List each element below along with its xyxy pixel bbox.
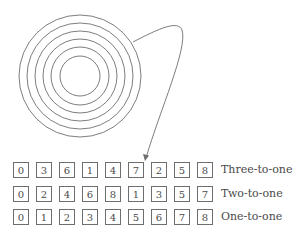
cell: 7 [197, 186, 213, 202]
cell: 3 [82, 209, 98, 225]
cell: 1 [36, 209, 52, 225]
cell: 0 [13, 162, 29, 178]
ring [19, 15, 141, 137]
cell: 5 [128, 209, 144, 225]
cell: 5 [174, 162, 190, 178]
cell: 2 [36, 186, 52, 202]
row-label: Three-to-one [221, 162, 292, 178]
curved-arrow [133, 26, 183, 158]
ring [43, 39, 117, 113]
cell: 3 [36, 162, 52, 178]
cell: 0 [13, 186, 29, 202]
cell: 4 [59, 186, 75, 202]
cell: 7 [174, 209, 190, 225]
row-label: Two-to-one [221, 186, 283, 202]
cell: 4 [105, 162, 121, 178]
cell: 8 [197, 162, 213, 178]
cell: 6 [59, 162, 75, 178]
cell: 8 [105, 186, 121, 202]
cell: 8 [197, 209, 213, 225]
cell-target: 7 [128, 162, 144, 178]
row-label: One-to-one [221, 209, 282, 225]
cell: 3 [151, 186, 167, 202]
arrowhead-icon [143, 154, 149, 161]
cell: 2 [151, 162, 167, 178]
concentric-circles [19, 15, 141, 137]
cell: 2 [59, 209, 75, 225]
cell: 0 [13, 209, 29, 225]
ring [35, 31, 125, 121]
cell: 4 [105, 209, 121, 225]
cell: 1 [128, 186, 144, 202]
cell: 5 [174, 186, 190, 202]
cell: 6 [151, 209, 167, 225]
ring [60, 56, 100, 96]
cell: 1 [82, 162, 98, 178]
cell: 6 [82, 186, 98, 202]
